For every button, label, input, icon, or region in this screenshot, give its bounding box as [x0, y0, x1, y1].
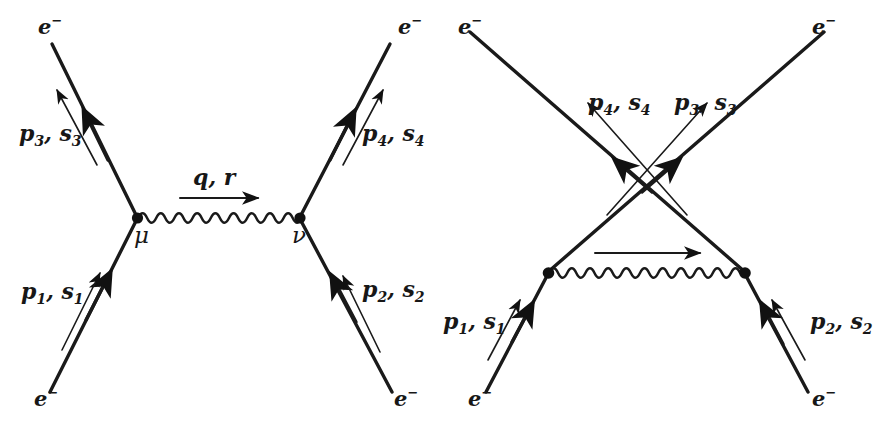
fermion-out-crossing-right — [548, 32, 824, 272]
label-momentum-p1-s1-x: p1, s1 — [443, 310, 506, 336]
momentum-arrow-p4-x — [588, 103, 687, 215]
fermion-in-right — [300, 219, 392, 392]
label-momentum-p3-s3: p3, s3 — [19, 122, 82, 148]
vertex-right-dot-x — [739, 267, 751, 279]
diagram-canvas — [0, 0, 880, 426]
label-electron-in-right-x: e− — [812, 386, 836, 409]
label-electron-out-left-x: e− — [458, 14, 482, 37]
photon-propagator-left — [138, 213, 302, 223]
photon-propagator-right — [549, 268, 740, 278]
direct-channel-diagram-group — [50, 44, 392, 392]
label-momentum-p3-s3-x: p3, s3 — [674, 91, 737, 117]
label-electron-out-left: e− — [38, 14, 62, 37]
label-electron-out-right-x: e− — [812, 14, 836, 37]
momentum-arrow-p3-x — [607, 103, 707, 215]
label-vertex-mu: μ — [134, 224, 149, 247]
fermion-in-right-x — [745, 274, 808, 392]
label-momentum-p1-s1: p1, s1 — [21, 280, 84, 306]
feynman-diagram-figure: e− e− e− e− p3, s3 p1, s1 p4, s4 p2, s2 … — [0, 0, 880, 426]
fermion-out-crossing-left — [470, 32, 745, 272]
label-momentum-p4-s4-x: p4, s4 — [588, 91, 651, 117]
vertex-left-dot-x — [543, 267, 555, 279]
label-electron-in-left: e− — [34, 386, 58, 409]
label-electron-in-right: e− — [394, 386, 418, 409]
label-momentum-p2-s2-x: p2, s2 — [810, 310, 873, 336]
label-momentum-p2-s2: p2, s2 — [362, 278, 425, 304]
label-electron-out-right: e− — [398, 14, 422, 37]
label-electron-in-left-x: e− — [468, 386, 492, 409]
label-momentum-p4-s4: p4, s4 — [362, 122, 425, 148]
exchange-channel-diagram-group — [470, 32, 824, 392]
label-vertex-nu: ν — [292, 224, 306, 247]
label-photon-momentum-qr: q, r — [193, 166, 235, 188]
